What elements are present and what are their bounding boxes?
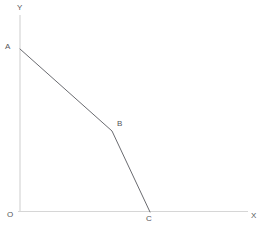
origin-label: O [7, 211, 13, 219]
point-label-a: A [5, 43, 10, 51]
x-axis-label: X [251, 212, 256, 220]
segment-abc-polyline [20, 49, 150, 212]
figure-canvas: Y X O A B C [0, 0, 269, 228]
y-axis-label: Y [17, 4, 22, 12]
point-label-b: B [117, 120, 122, 128]
plot-svg [0, 0, 269, 228]
point-label-c: C [146, 215, 152, 223]
